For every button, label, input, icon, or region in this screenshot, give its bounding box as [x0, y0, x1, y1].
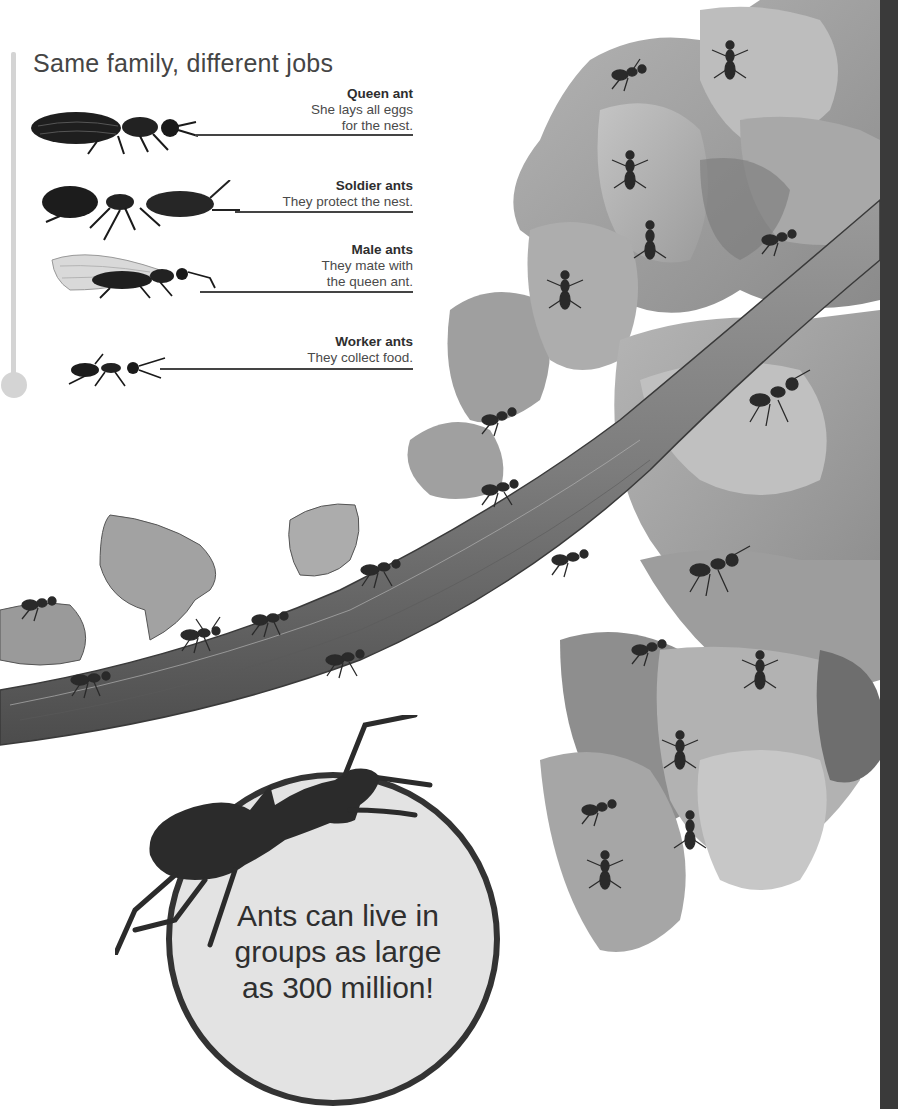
caste-male: Male ants They mate with the queen ant. — [321, 242, 413, 290]
caste-description: They protect the nest. — [282, 194, 413, 210]
caste-name: Soldier ants — [282, 178, 413, 194]
fact-text: Ants can live in groups as large as 300 … — [222, 898, 454, 1006]
queen-ant-leader-line — [195, 134, 413, 136]
caste-description: They collect food. — [307, 350, 413, 366]
page-edge-strip — [880, 0, 898, 1109]
worker-ant-leader-line — [160, 368, 413, 370]
timeline-bar — [11, 52, 16, 387]
caste-name: Queen ant — [311, 86, 413, 102]
timeline-end-dot — [1, 372, 27, 398]
caste-description: She lays all eggs for the nest. — [311, 102, 413, 134]
caste-queen: Queen ant She lays all eggs for the nest… — [311, 86, 413, 134]
worker-ant-icon — [65, 352, 170, 388]
queen-ant-icon — [28, 106, 203, 156]
caste-name: Worker ants — [307, 334, 413, 350]
caste-name: Male ants — [321, 242, 413, 258]
male-ant-leader-line — [200, 291, 413, 293]
caste-worker: Worker ants They collect food. — [307, 334, 413, 366]
winged-male-ant-icon — [50, 250, 220, 300]
caste-soldier: Soldier ants They protect the nest. — [282, 178, 413, 210]
caste-description: They mate with the queen ant. — [321, 258, 413, 290]
soldier-ant-icon — [40, 180, 240, 242]
soldier-ant-leader-line — [235, 211, 413, 213]
section-title: Same family, different jobs — [33, 49, 333, 78]
